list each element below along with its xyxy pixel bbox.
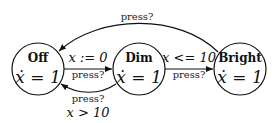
state-off-name: Off: [28, 51, 49, 65]
state-bright-name: Bright: [218, 51, 262, 65]
state-bright: Bright ẋ = 1: [214, 43, 266, 95]
state-dim-invariant: ẋ = 1: [116, 67, 161, 87]
label-dim-bright-sync: press?: [173, 69, 206, 80]
state-diagram: press? x := 0 press? press? x > 10 x <= …: [0, 0, 272, 123]
state-off: Off ẋ = 1: [12, 43, 64, 95]
label-dim-off-sync: press?: [72, 93, 105, 104]
state-off-invariant: ẋ = 1: [15, 67, 60, 87]
label-dim-off-guard: x > 10: [66, 105, 109, 120]
label-off-dim-update: x := 0: [68, 50, 107, 65]
state-dim: Dim ẋ = 1: [113, 43, 165, 95]
label-dim-bright-guard: x <= 10: [162, 50, 216, 65]
label-bright-off-sync: press?: [121, 11, 154, 22]
state-bright-invariant: ẋ = 1: [217, 67, 262, 87]
state-dim-name: Dim: [125, 51, 153, 65]
transition-dim-to-off: [61, 84, 116, 92]
label-off-dim-sync: press?: [72, 69, 105, 80]
